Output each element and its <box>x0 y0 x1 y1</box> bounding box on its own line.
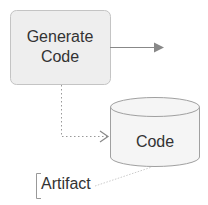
code-datastore-label: Code <box>110 117 200 167</box>
arrowhead-filled-icon <box>154 43 164 53</box>
generate-code-label: Generate Code <box>10 10 110 84</box>
data-flow-dotted-line <box>62 85 108 137</box>
generate-code-label-line-1: Generate <box>27 27 94 47</box>
artifact-annotation-label: Artifact <box>41 175 91 193</box>
generate-code-label-line-2: Code <box>27 47 94 67</box>
annotation-association-line <box>95 167 152 186</box>
